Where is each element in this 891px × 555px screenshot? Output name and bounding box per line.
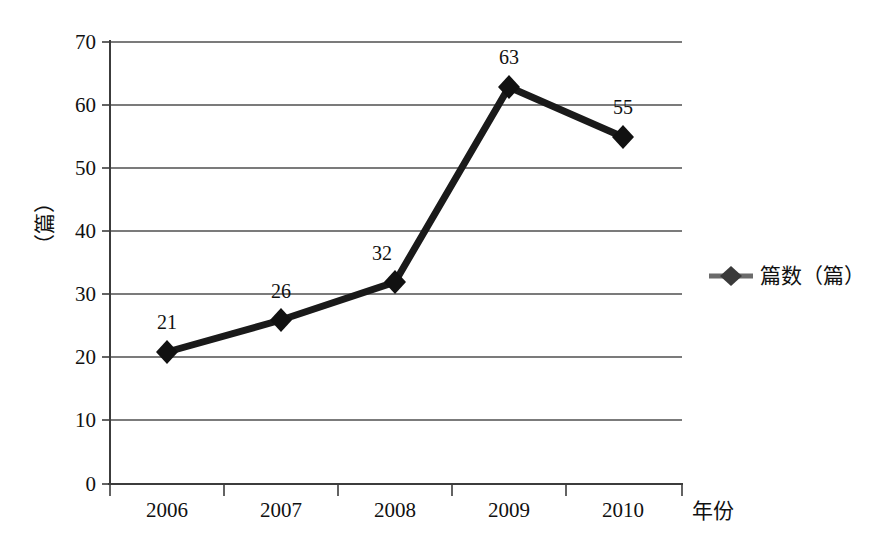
data-label-2010: 55 bbox=[598, 97, 648, 117]
series-line-pianshu bbox=[167, 87, 623, 352]
y-tick-label-60: 60 bbox=[46, 95, 96, 116]
y-tick-label-10: 10 bbox=[46, 410, 96, 431]
legend-marker bbox=[709, 266, 753, 286]
y-axis-title: （篇） bbox=[28, 192, 58, 255]
y-axis-ticks bbox=[102, 42, 110, 484]
data-label-2009: 63 bbox=[484, 47, 534, 67]
y-tick-label-20: 20 bbox=[46, 347, 96, 368]
x-axis-ticks bbox=[110, 484, 682, 496]
data-point-2006[interactable] bbox=[156, 340, 178, 364]
data-point-2007[interactable] bbox=[270, 308, 292, 332]
legend-diamond-icon bbox=[720, 266, 742, 286]
data-label-2007: 26 bbox=[256, 281, 306, 301]
x-tick-label-2010: 2010 bbox=[563, 500, 683, 521]
x-tick-label-2006: 2006 bbox=[107, 500, 227, 521]
legend-label-pianshu: 篇数（篇） bbox=[760, 265, 865, 286]
y-tick-label-0: 0 bbox=[46, 474, 96, 495]
chart-canvas bbox=[0, 0, 891, 555]
x-axis-title: 年份 bbox=[692, 500, 734, 521]
x-tick-label-2007: 2007 bbox=[221, 500, 341, 521]
data-point-2010[interactable] bbox=[612, 125, 634, 149]
series-markers bbox=[156, 75, 634, 364]
data-label-2006: 21 bbox=[142, 312, 192, 332]
line-chart-figure: 70 60 50 40 30 20 10 0 （篇） 2006 2007 200… bbox=[0, 0, 891, 555]
x-tick-label-2008: 2008 bbox=[335, 500, 455, 521]
y-tick-label-70: 70 bbox=[46, 32, 96, 53]
y-tick-label-50: 50 bbox=[46, 158, 96, 179]
data-label-2008: 32 bbox=[357, 243, 407, 263]
x-tick-label-2009: 2009 bbox=[449, 500, 569, 521]
y-tick-label-30: 30 bbox=[46, 284, 96, 305]
gridlines bbox=[110, 42, 682, 420]
